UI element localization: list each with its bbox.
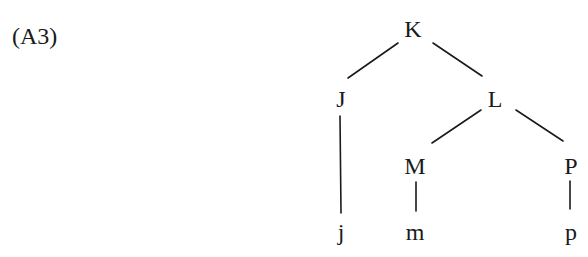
edge-K-L — [433, 43, 482, 76]
edge-J-j — [340, 116, 341, 213]
node-K: K — [404, 16, 422, 42]
tree-diagram: K J L M P j m p — [0, 0, 588, 257]
leaf-m: m — [406, 219, 425, 245]
node-M: M — [404, 153, 425, 179]
edge-L-P — [516, 110, 563, 141]
leaf-p: p — [565, 219, 577, 245]
node-J: J — [336, 86, 345, 112]
node-P: P — [564, 153, 577, 179]
edge-L-M — [432, 110, 481, 143]
node-L: L — [488, 86, 503, 112]
edge-K-J — [348, 43, 398, 78]
leaf-j: j — [337, 219, 345, 245]
